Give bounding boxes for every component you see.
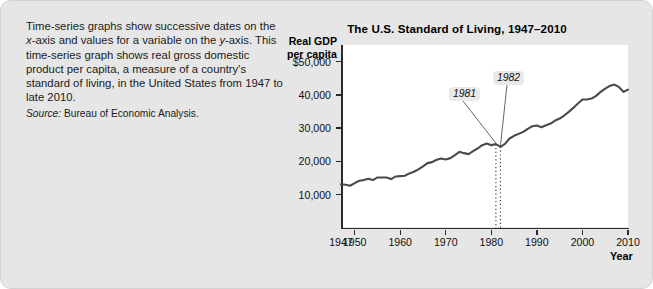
chart-title: The U.S. Standard of Living, 1947–2010: [277, 22, 637, 35]
series-line-gdp-per-capita: [341, 45, 628, 228]
x-tick-mark: [582, 230, 583, 235]
source-text: Bureau of Economic Analysis.: [64, 108, 199, 119]
figure-panel: Time-series graphs show successive dates…: [0, 0, 653, 289]
y-tick-label: 30,000: [273, 122, 331, 134]
x-tick-label: 2000: [562, 236, 602, 248]
x-axis-label: Year: [610, 250, 633, 262]
y-tick-label: 20,000: [273, 155, 331, 167]
figure-caption: Time-series graphs show successive dates…: [26, 19, 284, 120]
chart-container: The U.S. Standard of Living, 1947–2010 R…: [277, 15, 643, 277]
source-line: Source: Bureau of Economic Analysis.: [26, 107, 284, 120]
annotation-droplines: [496, 144, 501, 228]
y-tick-label: 40,000: [273, 89, 331, 101]
y-tick-label: 10,000: [273, 189, 331, 201]
x-tick-mark: [354, 230, 355, 235]
x-tick-mark: [536, 230, 537, 235]
caption-seg-2: -axis and values for a variable on the: [32, 34, 220, 46]
gdp-line: [341, 85, 628, 186]
x-tick-label: 1990: [517, 236, 557, 248]
source-label: Source:: [26, 108, 61, 119]
x-tick-mark: [627, 230, 628, 235]
x-tick-mark: [400, 230, 401, 235]
caption-seg-1: Time-series graphs show successive dates…: [26, 20, 275, 32]
x-tick-mark: [491, 230, 492, 235]
x-tick-mark: [445, 230, 446, 235]
y-axis-label-line1: Real GDP: [289, 35, 337, 47]
annotation-label-1981: 1981: [449, 87, 480, 101]
x-tick-label: 1950: [335, 236, 375, 248]
x-tick-label: 1980: [471, 236, 511, 248]
y-tick-label: $50,000: [273, 56, 331, 68]
x-tick-label: 1970: [426, 236, 466, 248]
caption-paragraph: Time-series graphs show successive dates…: [26, 19, 284, 105]
annotation-label-1982: 1982: [493, 71, 524, 85]
x-tick-label: 1960: [380, 236, 420, 248]
x-tick-label: 2010: [608, 236, 648, 248]
annotation-leader-line: [463, 101, 496, 143]
annotation-leader-line: [500, 85, 507, 146]
